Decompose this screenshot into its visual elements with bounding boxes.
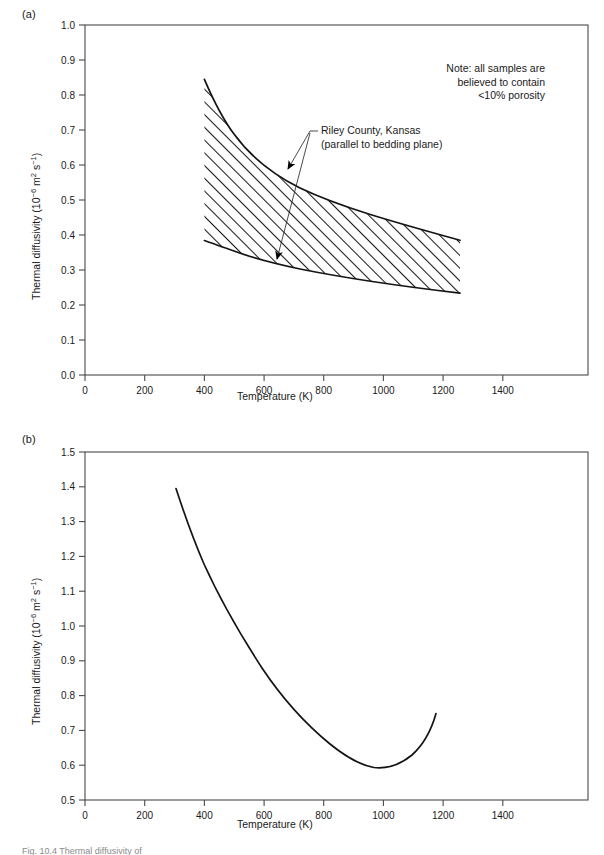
panel-a-leader-upper [288,131,310,169]
panel-b-x-tick-labels: 0 200 400 600 800 1000 1200 1400 [82,810,514,821]
panel-a-xtick-0: 0 [82,385,88,396]
panel-a-plot: 0 200 400 600 800 1000 1200 1400 [0,0,604,430]
panel-b-ytick-0.8: 0.8 [61,690,75,701]
panel-b-ytick-1.4: 1.4 [61,481,75,492]
panel-a-x-tick-labels: 0 200 400 600 800 1000 1200 1400 [82,385,514,396]
panel-b-data-curve [176,489,436,768]
panel-a-data-band [204,79,460,293]
panel-a-xtick-1000: 1000 [372,385,395,396]
panel-b-ytick-0.9: 0.9 [61,655,75,666]
panel-a-xtick-600: 600 [256,385,273,396]
panel-a-ytick-0.6: 0.6 [61,160,75,171]
panel-b-ytick-1.1: 1.1 [61,586,75,597]
panel-b-ytick-1.0: 1.0 [61,621,75,632]
panel-a-ytick-0.4: 0.4 [61,230,75,241]
panel-b-xtick-200: 200 [136,810,153,821]
panel-b-x-ticks [85,800,503,806]
panel-b-xtick-1200: 1200 [432,810,455,821]
panel-a-ytick-0.8: 0.8 [61,90,75,101]
panel-a-plot-frame [85,25,588,375]
panel-b-ytick-1.5: 1.5 [61,447,75,458]
panel-a-xtick-1200: 1200 [432,385,455,396]
panel-b-y-ticks [79,452,85,800]
panel-b-xtick-0: 0 [82,810,88,821]
panel-a-ytick-0.5: 0.5 [61,195,75,206]
figure-caption: Fig. 10.4 Thermal diffusivity of [22,846,582,855]
panel-a-x-ticks [85,375,503,381]
panel-a-ytick-0.9: 0.9 [61,55,75,66]
panel-b-xtick-800: 800 [315,810,332,821]
panel-a-ytick-0.1: 0.1 [61,335,75,346]
panel-b-ytick-0.7: 0.7 [61,725,75,736]
panel-b-ytick-1.2: 1.2 [61,551,75,562]
panel-a-ytick-0.3: 0.3 [61,265,75,276]
panel-b-ytick-0.5: 0.5 [61,795,75,806]
panel-a-ytick-1.0: 1.0 [61,20,75,31]
panel-b-ytick-0.6: 0.6 [61,760,75,771]
panel-b-xtick-400: 400 [196,810,213,821]
panel-a-xtick-400: 400 [196,385,213,396]
panel-b-xtick-600: 600 [256,810,273,821]
panel-b-y-tick-labels: 0.5 0.6 0.7 0.8 0.9 1.0 1.1 1.2 1.3 1.4 … [61,447,75,806]
panel-a-ytick-0.2: 0.2 [61,300,75,311]
panel-a-xtick-800: 800 [315,385,332,396]
panel-a: (a) Thermal diffusivity (10−6 m2 s−1) Te… [0,0,604,430]
panel-b-plot-frame [85,452,588,800]
panel-a-ytick-0.0: 0.0 [61,370,75,381]
panel-a-band-fill [204,79,460,293]
panel-a-xtick-1400: 1400 [492,385,515,396]
panel-b: (b) Thermal diffusivity (10−6 m2 s−1) Te… [0,425,604,855]
panel-a-ytick-0.7: 0.7 [61,125,75,136]
panel-b-xtick-1000: 1000 [372,810,395,821]
panel-a-xtick-200: 200 [136,385,153,396]
panel-b-xtick-1400: 1400 [492,810,515,821]
panel-b-plot: 0 200 400 600 800 1000 1200 1400 [0,425,604,855]
panel-a-y-ticks [79,25,85,375]
panel-b-ytick-1.3: 1.3 [61,516,75,527]
panel-a-y-tick-labels: 0.0 0.1 0.2 0.3 0.4 0.5 0.6 0.7 0.8 0.9 … [61,20,75,381]
